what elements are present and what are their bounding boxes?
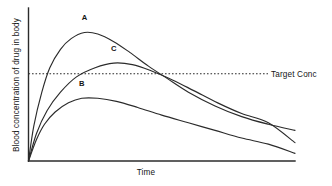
curve-label-b: B: [79, 79, 85, 88]
curve-labels-group: ACB: [79, 13, 117, 88]
target-conc-label: Target Conc: [271, 70, 317, 79]
x-axis-title: Time: [137, 168, 156, 177]
curve-label-a: A: [82, 13, 88, 22]
curves-group: [29, 32, 296, 161]
axes-group: [29, 8, 296, 161]
y-axis-title: Blood concentration of drug in body: [12, 17, 21, 152]
chart-plot-area: Target Conc ACB Time Blood concentration…: [0, 0, 332, 186]
curve-a: [29, 32, 296, 161]
curve-label-c: C: [111, 44, 117, 53]
curve-b: [29, 98, 296, 161]
target-concentration-group: Target Conc: [29, 70, 317, 79]
drug-concentration-chart: Target Conc ACB Time Blood concentration…: [0, 0, 332, 186]
curve-c: [29, 63, 296, 161]
